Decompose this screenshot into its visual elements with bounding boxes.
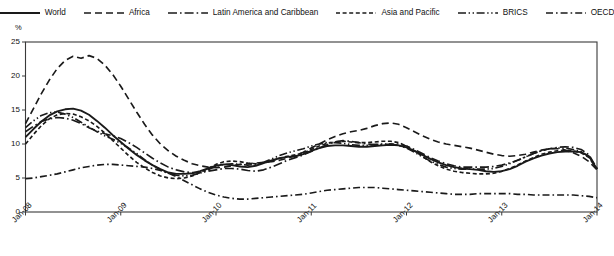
series-line-latin-america-and-caribbean xyxy=(26,117,598,172)
chart-page: WorldAfricaLatin America and CaribbeanAs… xyxy=(0,0,614,256)
plot-frame xyxy=(26,42,598,212)
y-axis-tick-label: 5 xyxy=(2,173,20,182)
y-axis-tick-label: 10 xyxy=(2,139,20,148)
series-line-brics xyxy=(26,112,598,176)
y-axis-tick-label: 15 xyxy=(2,105,20,114)
y-axis-tick-label: 25 xyxy=(2,37,20,46)
plot-area-wrapper: 2520151050 Jan-08Jan-09Jan-10Jan-11Jan-1… xyxy=(0,0,614,256)
series-line-africa xyxy=(26,56,598,170)
series-line-world xyxy=(26,109,598,174)
series-line-oecd xyxy=(26,164,598,199)
y-axis-tick-label: 20 xyxy=(2,71,20,80)
